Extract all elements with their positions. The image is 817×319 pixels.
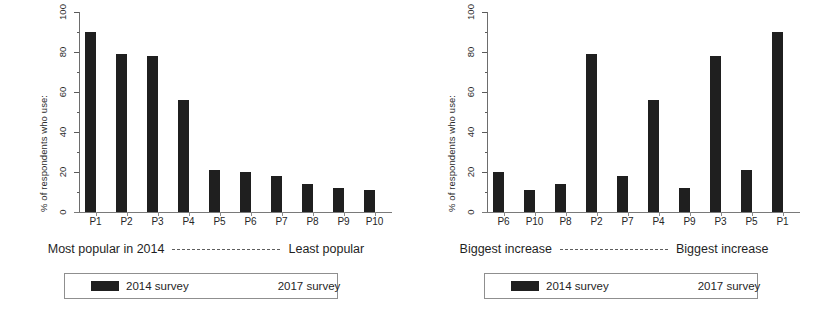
bar-slot (581, 12, 612, 212)
bar-2014-P7 (617, 176, 628, 212)
bar-2014-P1 (772, 32, 783, 212)
chart-panel-right: % of respondents who use: 020406080100 P… (408, 0, 816, 319)
x-tick-label-P7: P7 (612, 216, 643, 232)
x-tick-label-P6: P6 (235, 216, 266, 232)
x-tick-label-P1: P1 (767, 216, 798, 232)
bar-2014-P2 (116, 54, 127, 212)
caption-right-text: Biggest increase (676, 242, 768, 256)
bar-2014-P10 (524, 190, 535, 212)
bar-2014-P7 (271, 176, 282, 212)
bar-2014-P9 (679, 188, 690, 212)
y-tick-label-0: 0 (57, 201, 69, 223)
caption-left-text: Biggest increase (460, 242, 552, 256)
bar-slot (80, 12, 111, 212)
figure-root: % of respondents who use: 020406080100 P… (0, 0, 817, 319)
bar-2014-P5 (741, 170, 752, 212)
x-tick-label-P10: P10 (359, 216, 390, 232)
y-tick-label-100: 100 (465, 1, 477, 23)
bar-2014-P6 (493, 172, 504, 212)
y-axis-label-right: % of respondents who use: (446, 12, 460, 212)
caption-dashed-rule (172, 249, 280, 251)
x-tick-label-P8: P8 (550, 216, 581, 232)
plot-wrapper-left: % of respondents who use: 020406080100 P… (0, 0, 408, 232)
y-tick-label-80: 80 (465, 41, 477, 63)
legend-entry-2017-right[interactable]: 2017 survey (663, 274, 761, 298)
bar-2014-P3 (147, 56, 158, 212)
x-tick-label-P2: P2 (111, 216, 142, 232)
x-tick-label-P6: P6 (488, 216, 519, 232)
x-tick-label-P10: P10 (519, 216, 550, 232)
y-tick-labels-right: 020406080100 (460, 12, 482, 212)
bar-slot (488, 12, 519, 212)
bar-slot (550, 12, 581, 212)
bar-slot (359, 12, 390, 212)
bar-slot (674, 12, 705, 212)
x-tick-label-P3: P3 (705, 216, 736, 232)
legend-label-2014: 2014 survey (546, 280, 609, 292)
caption-right-text: Least popular (288, 242, 364, 256)
bar-2014-P8 (302, 184, 313, 212)
y-tick-label-100: 100 (57, 1, 69, 23)
legend-swatch-2017-icon (663, 281, 691, 291)
legend-entry-2017-left[interactable]: 2017 survey (243, 274, 341, 298)
bar-2014-P4 (178, 100, 189, 212)
legend-entry-2014-left[interactable]: 2014 survey (91, 274, 189, 298)
legend-swatch-2014-icon (91, 281, 119, 291)
axis-caption-left: Most popular in 2014 Least popular (20, 240, 392, 258)
bar-slot (142, 12, 173, 212)
bar-slot (204, 12, 235, 212)
y-tick-labels-left: 020406080100 (52, 12, 74, 212)
bar-2014-P4 (648, 100, 659, 212)
y-tick-label-80: 80 (57, 41, 69, 63)
legend-swatch-2017-icon (243, 281, 271, 291)
bar-slot (612, 12, 643, 212)
bar-2014-P10 (364, 190, 375, 212)
y-tick-label-0: 0 (465, 201, 477, 223)
x-tick-label-P3: P3 (142, 216, 173, 232)
plot-area-left (80, 12, 390, 212)
bar-2014-P9 (333, 188, 344, 212)
bar-slot (736, 12, 767, 212)
y-tick-label-20: 20 (465, 161, 477, 183)
bar-slot (111, 12, 142, 212)
legend-left: 2014 survey 2017 survey (64, 273, 338, 299)
legend-entry-2014-right[interactable]: 2014 survey (511, 274, 609, 298)
legend-label-2014: 2014 survey (126, 280, 189, 292)
x-tick-label-P1: P1 (80, 216, 111, 232)
caption-left-text: Most popular in 2014 (48, 242, 165, 256)
x-tick-labels-right: P6P10P8P2P7P4P9P3P5P1 (488, 216, 798, 232)
x-tick-label-P2: P2 (581, 216, 612, 232)
legend-label-2017: 2017 survey (698, 280, 761, 292)
x-tick-label-P9: P9 (674, 216, 705, 232)
bar-group-right (488, 12, 798, 212)
y-tick-label-40: 40 (465, 121, 477, 143)
bar-slot (235, 12, 266, 212)
chart-panel-left: % of respondents who use: 020406080100 P… (0, 0, 408, 319)
bar-slot (519, 12, 550, 212)
x-tick-label-P5: P5 (736, 216, 767, 232)
legend-right: 2014 survey 2017 survey (484, 273, 758, 299)
bar-2014-P5 (209, 170, 220, 212)
x-tick-labels-left: P1P2P3P4P5P6P7P8P9P10 (80, 216, 390, 232)
bar-2014-P3 (710, 56, 721, 212)
caption-dashed-rule (560, 249, 668, 251)
bar-2014-P1 (85, 32, 96, 212)
plot-area-right (488, 12, 798, 212)
bar-2014-P2 (586, 54, 597, 212)
x-tick-label-P8: P8 (297, 216, 328, 232)
bar-slot (297, 12, 328, 212)
y-tick-label-60: 60 (465, 81, 477, 103)
y-tick-label-40: 40 (57, 121, 69, 143)
y-tick-label-60: 60 (57, 81, 69, 103)
bar-group-left (80, 12, 390, 212)
bar-slot (173, 12, 204, 212)
legend-swatch-2014-icon (511, 281, 539, 291)
bar-slot (767, 12, 798, 212)
axis-caption-right: Biggest increase Biggest increase (428, 240, 800, 258)
x-tick-label-P5: P5 (204, 216, 235, 232)
bar-slot (643, 12, 674, 212)
x-tick-label-P7: P7 (266, 216, 297, 232)
bar-slot (328, 12, 359, 212)
bar-2014-P8 (555, 184, 566, 212)
y-tick-label-20: 20 (57, 161, 69, 183)
